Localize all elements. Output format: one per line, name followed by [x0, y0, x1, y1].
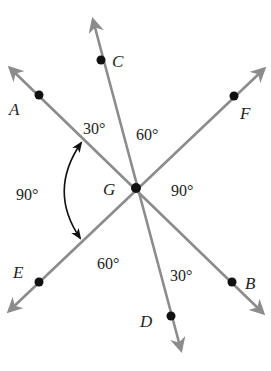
- angle-cgf: 60°: [136, 126, 158, 143]
- label-g: G: [103, 180, 115, 199]
- angle-agc: 30°: [83, 120, 105, 137]
- angle-fgb: 90°: [171, 182, 193, 199]
- label-c: C: [112, 52, 124, 71]
- point-e: [35, 278, 44, 287]
- right-angle-arc: [64, 143, 81, 238]
- point-g: [131, 183, 141, 193]
- angle-dge: 60°: [97, 255, 119, 272]
- label-f: F: [239, 104, 251, 123]
- point-b: [228, 278, 237, 287]
- point-a: [35, 91, 44, 100]
- angle-bgd: 30°: [170, 267, 192, 284]
- label-a: A: [8, 100, 20, 119]
- label-e: E: [12, 263, 24, 282]
- point-f: [230, 92, 239, 101]
- angle-ega: 90°: [16, 186, 38, 203]
- point-c: [97, 56, 106, 65]
- angle-diagram: A B C D E F G 30° 60° 90° 30° 60° 90°: [0, 0, 271, 371]
- point-d: [167, 312, 176, 321]
- label-b: B: [245, 274, 256, 293]
- label-d: D: [139, 312, 153, 331]
